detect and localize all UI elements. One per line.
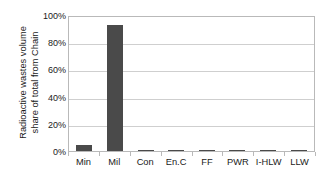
y-axis-tick-label: 0% bbox=[53, 147, 66, 157]
bar-chart: Radioactive wastes volume share of total… bbox=[0, 0, 330, 178]
bar-slot bbox=[253, 17, 284, 151]
bars-layer bbox=[69, 17, 314, 151]
x-axis-tick-mark bbox=[130, 152, 131, 156]
x-axis-tick-mark bbox=[161, 152, 162, 156]
bar-slot bbox=[130, 17, 161, 151]
bar[interactable] bbox=[138, 150, 154, 151]
x-axis-tick-mark bbox=[253, 152, 254, 156]
x-axis-tick-labels: MinMilConEn.CFFPWRI-HLWLLW bbox=[68, 157, 315, 173]
x-axis-tick-label: Min bbox=[68, 157, 99, 173]
bar-slot bbox=[161, 17, 192, 151]
bar[interactable] bbox=[260, 150, 276, 151]
y-axis-title-line-2: share of total from Chain bbox=[29, 26, 41, 139]
plot-area bbox=[68, 16, 315, 152]
y-axis-tick-labels: 0%20%40%60%80%100% bbox=[40, 16, 66, 152]
bar[interactable] bbox=[229, 150, 245, 151]
bar-slot bbox=[283, 17, 314, 151]
y-axis-tick-label: 60% bbox=[48, 65, 66, 75]
bar-slot bbox=[222, 17, 253, 151]
x-axis-tick-marks bbox=[68, 152, 315, 156]
x-axis-tick-mark bbox=[222, 152, 223, 156]
bar-slot bbox=[192, 17, 223, 151]
x-axis-tick-label: I-HLW bbox=[253, 157, 284, 173]
x-axis-tick-mark bbox=[284, 152, 285, 156]
x-axis-tick-mark bbox=[315, 152, 316, 156]
x-axis-tick-label: LLW bbox=[284, 157, 315, 173]
x-axis-tick-label: Con bbox=[130, 157, 161, 173]
bar[interactable] bbox=[199, 150, 215, 151]
x-axis-tick-mark bbox=[192, 152, 193, 156]
x-axis-tick-label: FF bbox=[192, 157, 223, 173]
x-axis-tick-label: Mil bbox=[99, 157, 130, 173]
bar[interactable] bbox=[291, 150, 307, 151]
bar[interactable] bbox=[107, 25, 123, 151]
x-axis-tick-mark bbox=[68, 152, 69, 156]
bar-slot bbox=[69, 17, 100, 151]
y-axis-title-line-1: Radioactive wastes volume bbox=[18, 26, 30, 139]
x-axis-tick-mark bbox=[99, 152, 100, 156]
x-axis-tick-label: En.C bbox=[161, 157, 192, 173]
y-axis-tick-label: 20% bbox=[48, 120, 66, 130]
y-axis-tick-label: 40% bbox=[48, 93, 66, 103]
x-axis-tick-label: PWR bbox=[222, 157, 253, 173]
bar[interactable] bbox=[76, 145, 92, 151]
y-axis-tick-label: 80% bbox=[48, 38, 66, 48]
bar-slot bbox=[100, 17, 131, 151]
bar[interactable] bbox=[168, 150, 184, 151]
y-axis-tick-label: 100% bbox=[43, 11, 66, 21]
